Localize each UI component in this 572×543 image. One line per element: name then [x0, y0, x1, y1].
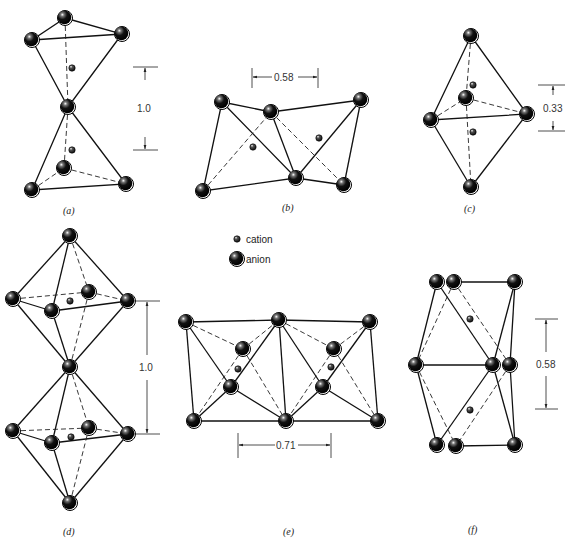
dimension-d: 1.0 — [139, 362, 153, 373]
panel-d-corner-sharing-octahedra: 1.0 (d) — [6, 229, 161, 539]
dimension-b: 0.58 — [274, 72, 294, 83]
dimension-c: 0.33 — [543, 103, 563, 114]
dimension-a: 1.0 — [137, 103, 151, 114]
label-c: (c) — [464, 203, 476, 215]
legend-cation-label: cation — [246, 234, 273, 245]
label-a: (a) — [63, 205, 75, 217]
panel-c-face-sharing-tetrahedra: 0.33 (c) — [424, 29, 566, 216]
panel-a-corner-sharing-tetrahedra: 1.0 (a) — [25, 11, 159, 218]
dimension-e: 0.71 — [276, 440, 296, 451]
label-f: (f) — [468, 524, 478, 536]
panel-f-face-sharing-octahedra: 0.58 (f) — [409, 275, 559, 537]
legend-anion-label: anion — [246, 254, 270, 265]
label-b: (b) — [282, 202, 294, 214]
panel-e-edge-sharing-octahedra: 0.71 (e) — [179, 313, 386, 539]
panel-b-edge-sharing-tetrahedra: 0.58 (b) — [196, 68, 369, 214]
label-e: (e) — [283, 526, 295, 538]
dimension-f: 0.58 — [536, 359, 556, 370]
polyhedra-figure: 1.0 (a) 0.58 (b) — [0, 0, 572, 543]
label-d: (d) — [63, 526, 75, 538]
legend: cation anion — [230, 234, 273, 267]
